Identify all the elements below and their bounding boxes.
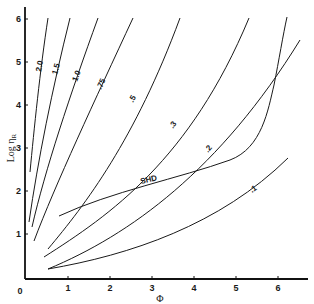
curve-label-2-0: 2.0 xyxy=(34,59,45,72)
curve-label-1-0: 1.0 xyxy=(70,69,82,83)
curve-0-3 xyxy=(44,18,249,257)
x-tick-label: 2 xyxy=(107,283,112,293)
curve-0-75 xyxy=(34,18,133,241)
curve-labels: 2.0 1.5 1.0 .75 .5 .3 .2 .1 SHD xyxy=(34,59,259,194)
y-tick-label: 2 xyxy=(16,186,21,196)
chart: 0 1 2 3 4 5 6 Φ 1 2 3 4 5 6 Log ηR xyxy=(0,0,314,304)
x-tick-label: 4 xyxy=(191,283,196,293)
curve-label-0-3: .3 xyxy=(167,119,179,130)
x-tick-label: 6 xyxy=(275,283,280,293)
curve-2-0 xyxy=(30,18,48,172)
y-tick-label: 1 xyxy=(16,229,21,239)
y-tick-label: 4 xyxy=(16,100,21,110)
y-axis-title-sub: R xyxy=(10,133,18,138)
curve-label-1-5: 1.5 xyxy=(50,62,62,76)
x-tick-label: 3 xyxy=(149,283,154,293)
x-tick-label: 5 xyxy=(233,283,238,293)
curve-label-0-2: .2 xyxy=(203,143,215,154)
x-tick-labels: 0 1 2 3 4 5 6 xyxy=(17,283,280,296)
curve-0-5 xyxy=(48,18,180,249)
y-tick-labels: 1 2 3 4 5 6 xyxy=(16,14,21,239)
curve-0-2 xyxy=(48,40,300,269)
curve-1-0 xyxy=(32,18,98,227)
curve-label-0-5: .5 xyxy=(127,93,138,104)
y-tick-label: 3 xyxy=(16,143,21,153)
y-tick-label: 6 xyxy=(16,14,21,24)
x-axis-title: Φ xyxy=(156,293,163,304)
y-tick-label: 5 xyxy=(16,57,21,67)
origin-label: 0 xyxy=(17,286,22,296)
curve-label-shd: SHD xyxy=(139,173,158,186)
y-axis-title-main: Log η xyxy=(5,138,16,162)
curve-label-0-75: .75 xyxy=(95,76,108,90)
curves xyxy=(29,17,300,269)
x-tick-label: 1 xyxy=(65,283,70,293)
